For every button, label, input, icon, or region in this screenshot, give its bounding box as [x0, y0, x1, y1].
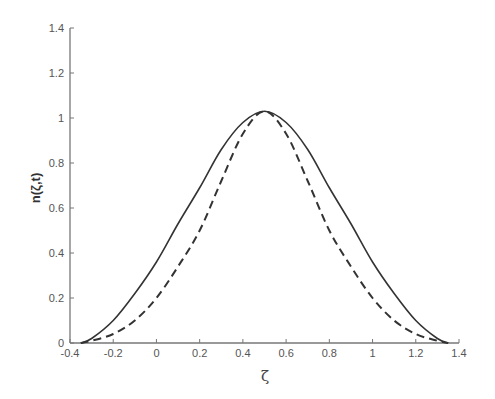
x-tick-label: 0.8 — [322, 347, 337, 359]
x-tick-label: 1.2 — [408, 347, 423, 359]
y-tick-label: 0.8 — [49, 157, 64, 169]
x-tick-label: 0.4 — [235, 347, 250, 359]
y-tick-label: 1 — [58, 112, 64, 124]
y-tick-label: 0.6 — [49, 202, 64, 214]
series-group — [81, 111, 448, 343]
x-axis-label: ζ — [261, 367, 269, 385]
y-tick-label: 0 — [58, 337, 64, 349]
x-tick-label: 0 — [153, 347, 159, 359]
series-solid-line — [81, 111, 448, 343]
y-tick-label: 1.2 — [49, 67, 64, 79]
x-tick-label: 0.6 — [278, 347, 293, 359]
y-axis-label: n(ζ,t) — [28, 173, 43, 204]
x-tick-label: 0.2 — [192, 347, 207, 359]
axes: -0.4-0.200.20.40.60.811.21.400.20.40.60.… — [49, 22, 467, 359]
y-tick-label: 0.4 — [49, 247, 64, 259]
x-tick-label: 1 — [369, 347, 375, 359]
x-tick-label: -0.2 — [104, 347, 123, 359]
series-dashed-line — [81, 111, 448, 343]
x-tick-label: 1.4 — [451, 347, 466, 359]
y-tick-label: 0.2 — [49, 292, 64, 304]
chart: -0.4-0.200.20.40.60.811.21.400.20.40.60.… — [0, 0, 495, 399]
y-tick-label: 1.4 — [49, 22, 64, 34]
